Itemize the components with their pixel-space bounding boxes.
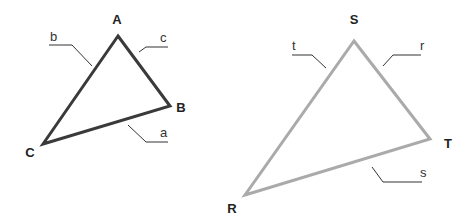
- vertex-label-b: B: [176, 100, 185, 115]
- side-s-leader: [372, 167, 422, 182]
- side-b-leader: [49, 45, 92, 66]
- triangles-diagram: A B C b c a S T R t r s: [0, 0, 474, 224]
- vertex-label-t: T: [444, 136, 452, 151]
- side-label-t: t: [292, 38, 296, 53]
- triangle-rst: S T R t r s: [227, 12, 452, 216]
- vertex-label-s: S: [350, 12, 359, 27]
- side-t-leader: [292, 55, 326, 68]
- vertex-label-r: R: [227, 201, 237, 216]
- triangle-rst-shape: [245, 41, 430, 195]
- vertex-label-a: A: [112, 12, 122, 27]
- side-label-s: s: [420, 165, 427, 180]
- side-label-b: b: [50, 29, 57, 44]
- side-r-leader: [383, 55, 421, 66]
- side-label-c: c: [160, 30, 167, 45]
- vertex-label-c: C: [25, 145, 35, 160]
- side-label-a: a: [160, 125, 168, 140]
- side-c-leader: [139, 47, 168, 52]
- triangle-abc: A B C b c a: [25, 12, 185, 160]
- side-label-r: r: [420, 38, 425, 53]
- triangle-abc-shape: [43, 36, 170, 144]
